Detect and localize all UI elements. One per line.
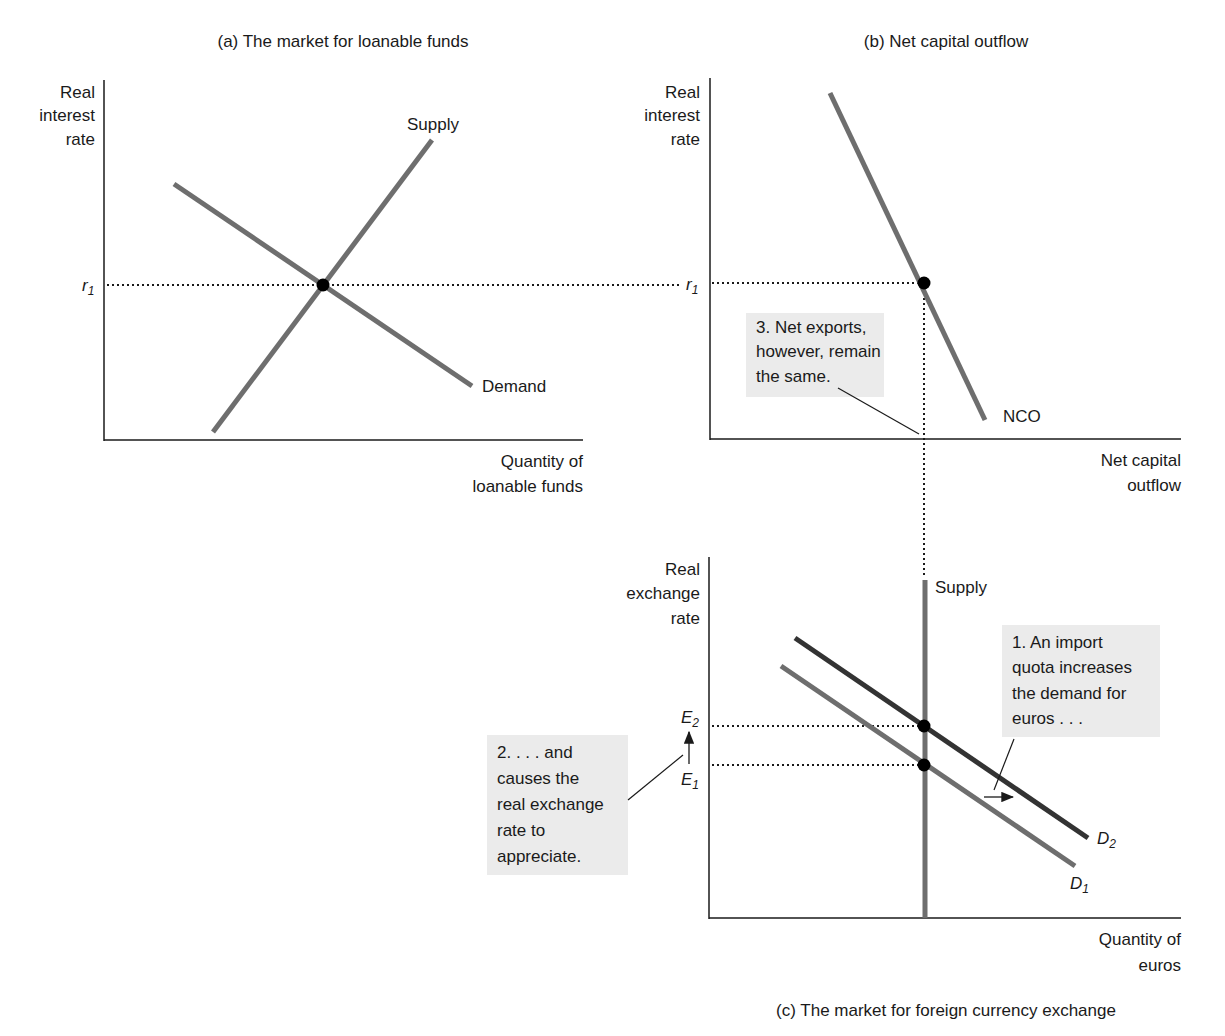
callout-2-line-5: appreciate. xyxy=(497,847,581,866)
panel-b-ylabel-2: interest xyxy=(644,106,700,125)
callout-1-line-2: quota increases xyxy=(1012,658,1132,677)
d2-label: D2 xyxy=(1097,829,1116,851)
equilibrium-point-e2 xyxy=(918,720,931,733)
equilibrium-point-b xyxy=(918,277,931,290)
e2-label: E2 xyxy=(681,708,699,730)
panel-b-xlabel-2: outflow xyxy=(1127,476,1182,495)
panel-a-xlabel-1: Quantity of xyxy=(501,452,583,471)
panel-c-ylabel-2: exchange xyxy=(626,584,700,603)
panel-a-r1-label: r1 xyxy=(82,276,94,298)
demand-label: Demand xyxy=(482,377,546,396)
equilibrium-point-a xyxy=(317,279,330,292)
e1-label: E1 xyxy=(681,770,699,792)
callout-3-line-1: 3. Net exports, xyxy=(756,318,867,337)
panel-c-xlabel-2: euros xyxy=(1138,956,1181,975)
panel-b-ylabel-3: rate xyxy=(671,130,700,149)
panel-c-ylabel-1: Real xyxy=(665,560,700,579)
supply-label: Supply xyxy=(407,115,459,134)
panel-a-ylabel-2: interest xyxy=(39,106,95,125)
callout-3-line-3: the same. xyxy=(756,367,831,386)
panel-a-ylabel-1: Real xyxy=(60,83,95,102)
panel-b-net-capital-outflow: (b) Net capital outflow Real interest ra… xyxy=(644,32,1181,578)
callout-1-line-3: the demand for xyxy=(1012,684,1127,703)
callout-1-line-1: 1. An import xyxy=(1012,633,1103,652)
panel-b-r1-label: r1 xyxy=(686,275,698,297)
callout-2-leader xyxy=(628,755,683,800)
panel-a-ylabel-3: rate xyxy=(66,130,95,149)
panel-c-xlabel-1: Quantity of xyxy=(1099,930,1181,949)
panel-c-foreign-currency-exchange: Real exchange rate Quantity of euros (c)… xyxy=(487,557,1181,1020)
callout-2-line-3: real exchange xyxy=(497,795,604,814)
panel-a-xlabel-2: loanable funds xyxy=(472,477,583,496)
callout-3-line-2: however, remain xyxy=(756,342,881,361)
nco-label: NCO xyxy=(1003,407,1041,426)
callout-2-line-4: rate to xyxy=(497,821,545,840)
d1-label: D1 xyxy=(1070,874,1089,896)
euro-supply-label: Supply xyxy=(935,578,987,597)
panel-a-loanable-funds: (a) The market for loanable funds Real i… xyxy=(39,32,680,496)
panel-b-xlabel-1: Net capital xyxy=(1101,451,1181,470)
panel-c-title: (c) The market for foreign currency exch… xyxy=(776,1001,1116,1020)
panel-b-title: (b) Net capital outflow xyxy=(864,32,1029,51)
callout-1-line-4: euros . . . xyxy=(1012,709,1083,728)
panel-b-ylabel-1: Real xyxy=(665,83,700,102)
callout-2-line-1: 2. . . . and xyxy=(497,743,573,762)
diagram-canvas: (a) The market for loanable funds Real i… xyxy=(0,0,1225,1036)
panel-c-ylabel-3: rate xyxy=(671,609,700,628)
equilibrium-point-e1 xyxy=(918,759,931,772)
callout-2-line-2: causes the xyxy=(497,769,579,788)
panel-a-title: (a) The market for loanable funds xyxy=(217,32,468,51)
